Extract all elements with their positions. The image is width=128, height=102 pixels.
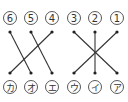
bottom-label: カ (6, 83, 15, 93)
dot-top-1 (115, 30, 118, 33)
dot-bottom-e (50, 71, 53, 74)
dot-top-5 (29, 30, 32, 33)
bottom-label: ウ (70, 83, 79, 93)
dot-top-6 (8, 30, 11, 33)
dot-top-3 (72, 30, 75, 33)
connection-diagram: 6 5 4 3 2 1 カ オ エ ウ イ ア (0, 0, 128, 102)
dot-top-2 (93, 30, 96, 33)
top-label: 4 (49, 13, 55, 24)
bottom-labels: カ オ エ ウ イ ア (4, 81, 124, 94)
top-label: 5 (28, 13, 34, 24)
connection-lines (10, 32, 117, 73)
bottom-label: エ (48, 83, 57, 93)
top-label: 6 (7, 13, 13, 24)
top-dots (8, 30, 118, 33)
dot-bottom-ka (8, 71, 11, 74)
top-label: 1 (114, 13, 120, 24)
top-label: 3 (71, 13, 77, 24)
bottom-label: イ (91, 83, 100, 93)
line-5-e (31, 32, 52, 73)
dot-top-4 (50, 30, 53, 33)
dot-bottom-u (72, 71, 75, 74)
dot-bottom-a (115, 71, 118, 74)
line-6-o (10, 32, 31, 73)
bottom-dots (8, 71, 118, 74)
line-4-ka (10, 32, 52, 73)
bottom-label: ア (113, 83, 122, 93)
top-label: 2 (92, 13, 98, 24)
bottom-label: オ (27, 83, 36, 93)
dot-bottom-o (29, 71, 32, 74)
top-labels: 6 5 4 3 2 1 (4, 12, 124, 25)
dot-bottom-i (93, 71, 96, 74)
